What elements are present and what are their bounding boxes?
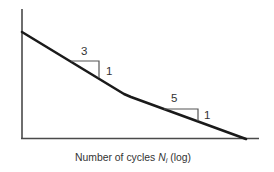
slope-1-rise-label: 1 <box>106 65 112 77</box>
slope-2-rise-label: 1 <box>204 109 210 121</box>
x-axis-label: Number of cycles Ni (log) <box>75 151 191 165</box>
slope-2-run-label: 5 <box>171 92 177 104</box>
x-axis-label-prefix: Number of cycles <box>75 151 158 163</box>
sn-curve-line <box>22 32 246 139</box>
slope-1-run-label: 3 <box>81 45 87 57</box>
sn-curve-diagram: 3 1 5 1 Number of cycles Ni (log) <box>0 0 274 172</box>
x-axis-label-suffix: (log) <box>167 151 191 163</box>
